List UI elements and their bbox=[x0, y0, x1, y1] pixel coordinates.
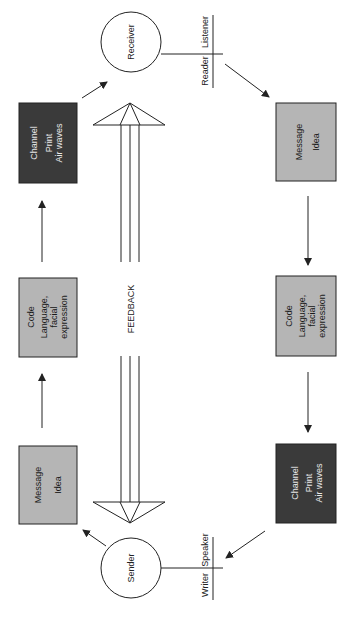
receiver-channel-detail-2: Air waves bbox=[314, 463, 324, 503]
receiver-code-detail-1: Language, bbox=[297, 295, 307, 338]
receiver-message-title: Message bbox=[294, 124, 304, 161]
receiver-channel-detail-1: Print bbox=[304, 473, 314, 492]
feedback-arrow: FEEDBACK bbox=[93, 103, 165, 523]
feedback-label: FEEDBACK bbox=[126, 285, 136, 334]
sender-code-box: Code Language, facial expression bbox=[19, 278, 77, 357]
receiver-message-detail: Idea bbox=[311, 133, 321, 151]
arrow-receiver-to-message bbox=[225, 64, 269, 97]
receiver-channel-title: Channel bbox=[290, 466, 300, 500]
sender-code-detail-2: facial bbox=[49, 306, 59, 327]
sender-message-title: Message bbox=[33, 467, 43, 504]
sender-message-detail: Idea bbox=[53, 476, 63, 494]
arrow-channel-to-receiver bbox=[82, 82, 107, 98]
sender-channel-box: Channel Print Air waves bbox=[19, 103, 77, 183]
receiver-message-box: Message Idea bbox=[276, 103, 336, 181]
receiver-code-title: Code bbox=[284, 305, 294, 327]
receiver-role-listener: Listener bbox=[200, 16, 210, 48]
receiver-role-cross: Reader Listener bbox=[161, 15, 223, 88]
arrow-sender-to-message bbox=[83, 530, 106, 546]
receiver-node: Receiver bbox=[101, 12, 161, 72]
sender-role-speaker: Speaker bbox=[200, 533, 210, 567]
sender-code-detail-1: Language, bbox=[39, 296, 49, 339]
sender-message-box: Message Idea bbox=[19, 446, 77, 524]
sender-channel-detail-1: Print bbox=[44, 133, 54, 152]
sender-channel-title: Channel bbox=[29, 126, 39, 160]
communication-model-diagram: Channel Print Air waves Code Language, f… bbox=[0, 0, 362, 617]
receiver-role-reader: Reader bbox=[200, 56, 210, 86]
receiver-code-detail-3: expression bbox=[317, 294, 327, 338]
sender-channel-detail-2: Air waves bbox=[54, 123, 64, 163]
sender-role-cross: Writer Speaker bbox=[161, 533, 223, 600]
receiver-channel-box: Channel Print Air waves bbox=[276, 444, 336, 523]
sender-label: Sender bbox=[126, 553, 136, 582]
arrow-channel-to-sender bbox=[226, 531, 265, 558]
receiver-label: Receiver bbox=[126, 24, 136, 60]
sender-code-title: Code bbox=[26, 306, 36, 328]
sender-role-writer: Writer bbox=[200, 573, 210, 597]
sender-node: Sender bbox=[101, 538, 161, 598]
receiver-code-detail-2: facial bbox=[307, 305, 317, 326]
sender-code-detail-3: expression bbox=[59, 295, 69, 339]
receiver-code-box: Code Language, facial expression bbox=[276, 276, 336, 356]
